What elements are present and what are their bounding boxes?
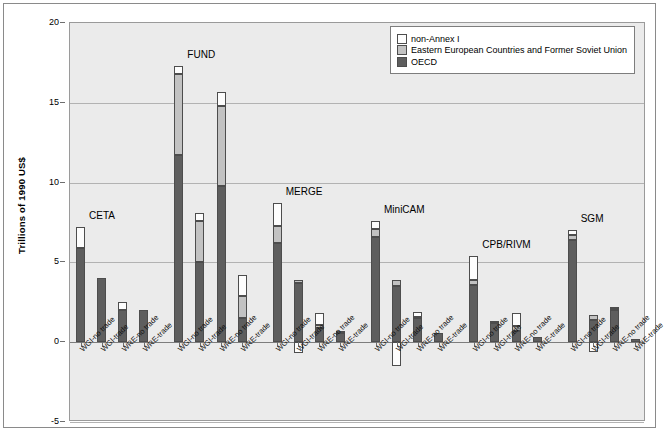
legend-swatch-icon — [397, 57, 407, 67]
group-label-ceta: CETA — [89, 210, 115, 221]
bar-segment — [469, 280, 478, 285]
legend-label: non-Annex I — [411, 34, 460, 44]
bar-segment — [568, 230, 577, 235]
gridline-15 — [70, 103, 644, 104]
bar-segment — [195, 221, 204, 262]
group-label-fund: FUND — [187, 49, 215, 60]
y-tick-mark-15 — [60, 102, 65, 103]
y-tick-mark-20 — [60, 22, 65, 23]
y-tick-label--5: -5 — [51, 416, 59, 426]
group-label-merge: MERGE — [286, 186, 323, 197]
bar-segment — [195, 213, 204, 221]
legend-item: OECD — [397, 57, 627, 67]
group-label-sgm: SGM — [581, 213, 604, 224]
legend-label: OECD — [411, 57, 437, 67]
bar-segment — [413, 312, 422, 317]
bar-segment — [217, 106, 226, 186]
y-tick-mark-5 — [60, 261, 65, 262]
bar-segment — [392, 280, 401, 286]
bar-segment — [568, 240, 577, 342]
y-tick-mark--5 — [60, 421, 65, 422]
bar-segment — [294, 280, 303, 283]
bar-segment — [273, 243, 282, 342]
y-tick-mark-0 — [60, 341, 65, 342]
legend-item: Eastern European Countries and Former So… — [397, 45, 627, 55]
bar-segment — [174, 74, 183, 155]
chart-frame: Trillions of 1990 US$ 20151050-5 non-Ann… — [3, 3, 656, 428]
gridline-10 — [70, 183, 644, 184]
bar-segment — [76, 248, 85, 342]
bar-segment — [76, 227, 85, 248]
bar-segment — [238, 275, 247, 296]
legend-label: Eastern European Countries and Former So… — [411, 45, 627, 55]
bar-segment — [273, 226, 282, 244]
y-axis-title: Trillions of 1990 US$ — [16, 141, 27, 271]
bar-segment — [469, 285, 478, 342]
bar-segment — [273, 203, 282, 225]
y-tick-mark-10 — [60, 182, 65, 183]
plot-area — [69, 22, 645, 421]
bar-segment — [610, 307, 619, 309]
y-tick-label-5: 5 — [54, 256, 59, 266]
legend-item: non-Annex I — [397, 34, 627, 44]
y-tick-label-15: 15 — [49, 97, 59, 107]
chart-legend: non-Annex IEastern European Countries an… — [390, 26, 635, 74]
bar-segment — [118, 302, 127, 310]
bar-segment — [217, 92, 226, 106]
group-label-minicam: MiniCAM — [384, 204, 425, 215]
bar-segment — [174, 155, 183, 342]
y-tick-label-20: 20 — [49, 17, 59, 27]
bar-segment — [371, 229, 380, 237]
y-tick-label-0: 0 — [54, 336, 59, 346]
bar-segment — [413, 317, 422, 319]
bar-segment — [371, 221, 380, 229]
gridline--5 — [70, 422, 644, 423]
gridline-5 — [70, 262, 644, 263]
bar-segment — [174, 66, 183, 74]
legend-swatch-icon — [397, 45, 407, 55]
bar-segment — [568, 235, 577, 240]
bar-segment — [371, 237, 380, 342]
group-label-cpb-rivm: CPB/RIVM — [482, 239, 530, 250]
y-tick-label-10: 10 — [49, 177, 59, 187]
bar-segment — [238, 296, 247, 318]
legend-swatch-icon — [397, 34, 407, 44]
y-axis: Trillions of 1990 US$ 20151050-5 — [4, 4, 69, 433]
bar-segment — [217, 186, 226, 342]
bar-segment — [469, 256, 478, 280]
